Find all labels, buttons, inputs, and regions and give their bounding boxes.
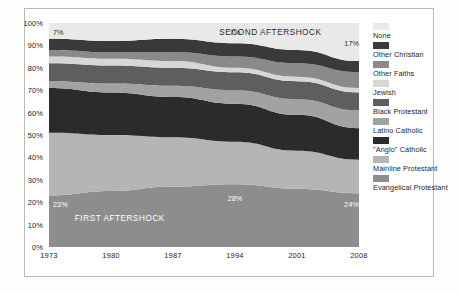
y-axis-tick-label: 20% bbox=[9, 198, 43, 207]
legend-swatch bbox=[373, 61, 389, 68]
legend: NoneOther ChristianOther FaithsJewishBla… bbox=[373, 23, 457, 194]
legend-swatch bbox=[373, 156, 389, 163]
legend-item[interactable]: Evangelical Protestant bbox=[373, 175, 457, 192]
legend-item[interactable]: Other Faiths bbox=[373, 61, 457, 78]
legend-item[interactable]: Jewish bbox=[373, 80, 457, 97]
legend-label: Black Protestant bbox=[373, 107, 457, 116]
chart-area: 0%10%20%30%40%50%60%70%80%90%100% 197319… bbox=[49, 23, 359, 247]
legend-item[interactable]: None bbox=[373, 23, 457, 40]
x-axis-tick-label: 1980 bbox=[102, 251, 120, 260]
legend-label: None bbox=[373, 31, 457, 40]
data-label-none-1994: 7% bbox=[230, 27, 241, 36]
y-axis-tick-label: 10% bbox=[9, 220, 43, 229]
y-axis-tick-label: 70% bbox=[9, 86, 43, 95]
legend-item[interactable]: Black Protestant bbox=[373, 99, 457, 116]
data-label-none-1973: 7% bbox=[53, 27, 64, 36]
y-axis-tick-label: 50% bbox=[9, 131, 43, 140]
x-axis-tick-label: 2008 bbox=[350, 251, 368, 260]
data-label-evangelical-1973: 23% bbox=[53, 200, 68, 209]
y-axis-tick-label: 60% bbox=[9, 108, 43, 117]
y-axis-tick-label: 100% bbox=[9, 19, 43, 28]
legend-label: Mainline Protestant bbox=[373, 164, 457, 173]
y-axis-tick-label: 40% bbox=[9, 153, 43, 162]
legend-label: Other Christian bbox=[373, 50, 457, 59]
x-axis-tick-label: 1987 bbox=[164, 251, 182, 260]
y-axis-tick-label: 30% bbox=[9, 175, 43, 184]
legend-item[interactable]: Mainline Protestant bbox=[373, 156, 457, 173]
data-label-none-2008: 17% bbox=[344, 39, 359, 48]
chart-frame: 0%10%20%30%40%50%60%70%80%90%100% 197319… bbox=[24, 8, 434, 277]
legend-item[interactable]: Other Christian bbox=[373, 42, 457, 59]
x-axis-tick-label: 1994 bbox=[226, 251, 244, 260]
legend-label: "Anglo" Catholic bbox=[373, 145, 457, 154]
legend-swatch bbox=[373, 42, 389, 49]
legend-label: Other Faiths bbox=[373, 69, 457, 78]
annotation-first-aftershock: FIRST AFTERSHOCK bbox=[75, 213, 165, 222]
data-label-evangelical-1994: 28% bbox=[228, 193, 243, 202]
legend-swatch bbox=[373, 23, 389, 30]
legend-swatch bbox=[373, 99, 389, 106]
data-label-evangelical-2008: 24% bbox=[344, 200, 359, 209]
legend-swatch bbox=[373, 175, 389, 182]
x-axis-tick-label: 1973 bbox=[40, 251, 58, 260]
legend-swatch bbox=[373, 80, 389, 87]
legend-label: Evangelical Protestant bbox=[373, 183, 457, 192]
legend-swatch bbox=[373, 137, 389, 144]
legend-label: Jewish bbox=[373, 88, 457, 97]
legend-item[interactable]: Latino Catholic bbox=[373, 118, 457, 135]
y-axis-tick-label: 90% bbox=[9, 41, 43, 50]
legend-item[interactable]: "Anglo" Catholic bbox=[373, 137, 457, 154]
y-axis-tick-label: 0% bbox=[9, 243, 43, 252]
legend-label: Latino Catholic bbox=[373, 126, 457, 135]
legend-swatch bbox=[373, 118, 389, 125]
y-axis-tick-label: 80% bbox=[9, 63, 43, 72]
x-axis-tick-label: 2001 bbox=[288, 251, 306, 260]
